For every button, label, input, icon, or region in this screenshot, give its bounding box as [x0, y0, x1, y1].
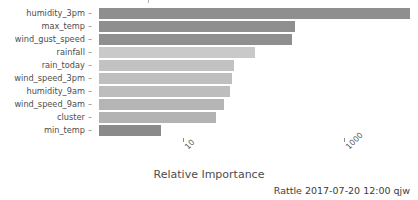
bar-row — [99, 99, 224, 110]
bar-humidity-9am — [99, 86, 230, 97]
x-axis-tickmark — [344, 138, 345, 142]
bar-row — [99, 60, 234, 71]
bar-cluster — [99, 112, 216, 123]
y-axis-label: cluster– — [57, 112, 92, 123]
y-axis-label: max_temp– — [42, 21, 92, 32]
bar-row — [99, 8, 410, 19]
y-axis-label-text: humidity_3pm — [26, 8, 85, 18]
x-axis-tickmark — [183, 138, 184, 142]
y-axis-label: wind_speed_3pm– — [14, 73, 92, 84]
y-axis-label: rainfall– — [57, 47, 92, 58]
bar-max-temp — [99, 21, 295, 32]
bar-rain-today — [99, 60, 234, 71]
y-axis-label-text: cluster — [57, 112, 85, 122]
y-axis-tick-dash: – — [88, 8, 92, 19]
y-axis-label-text: wind_gust_speed — [15, 34, 85, 44]
y-axis-label-text: rain_today — [42, 60, 85, 70]
top-axis-tick — [148, 0, 149, 3]
y-axis-tick-dash: – — [88, 34, 92, 45]
x-axis-title: Relative Importance — [0, 168, 418, 181]
bar-row — [99, 47, 255, 58]
bar-row — [99, 112, 216, 123]
bar-min-temp — [99, 125, 161, 136]
y-axis-label: humidity_9am– — [26, 86, 92, 97]
y-axis-tick-dash: – — [88, 112, 92, 123]
y-axis-label-text: wind_speed_9am — [14, 99, 84, 109]
bar-wind-speed-9am — [99, 99, 224, 110]
y-axis-label-text: max_temp — [42, 21, 85, 31]
bar-row — [99, 21, 295, 32]
y-axis-tick-dash: – — [88, 73, 92, 84]
y-axis-tick-dash: – — [88, 86, 92, 97]
y-axis-tick-dash: – — [88, 60, 92, 71]
y-axis-tick-dash: – — [88, 99, 92, 110]
y-axis-label-text: rainfall — [57, 47, 85, 57]
bar-wind-gust-speed — [99, 34, 292, 45]
rattle-timestamp: Rattle 2017-07-20 12:00 qjw — [274, 185, 410, 196]
bar-row — [99, 125, 161, 136]
y-axis-label: rain_today– — [42, 60, 92, 71]
bar-row — [99, 73, 232, 84]
y-axis-label: humidity_3pm– — [26, 8, 92, 19]
y-axis-label: min_temp– — [44, 125, 92, 136]
y-axis-label: wind_gust_speed– — [15, 34, 92, 45]
y-axis-tick-dash: – — [88, 21, 92, 32]
bar-humidity-3pm — [99, 8, 410, 19]
y-axis-label: wind_speed_9am– — [14, 99, 92, 110]
y-axis-label-text: wind_speed_3pm — [14, 73, 85, 83]
y-axis-tick-dash: – — [88, 47, 92, 58]
variable-importance-chart: humidity_3pm– max_temp– wind_gust_speed–… — [0, 0, 418, 200]
bar-row — [99, 34, 292, 45]
bar-wind-speed-3pm — [99, 73, 232, 84]
bar-row — [99, 86, 230, 97]
y-axis-label-text: min_temp — [44, 125, 85, 135]
y-axis-label-text: humidity_9am — [26, 86, 84, 96]
plot-area — [99, 8, 410, 138]
y-axis-tick-dash: – — [88, 125, 92, 136]
bar-rainfall — [99, 47, 255, 58]
y-axis-labels: humidity_3pm– max_temp– wind_gust_speed–… — [0, 8, 92, 138]
